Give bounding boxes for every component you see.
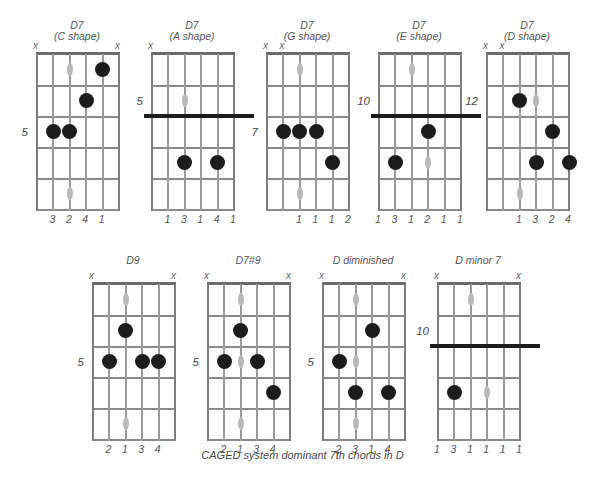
string-line — [167, 54, 169, 211]
finger-dot — [102, 354, 117, 369]
finger-dot — [545, 124, 560, 139]
fret-line — [151, 147, 235, 149]
finger-dot — [250, 354, 265, 369]
finger-number: 1 — [308, 214, 322, 225]
fret-line — [36, 116, 120, 118]
fret-line — [207, 439, 291, 441]
string-gauge-marker — [297, 187, 303, 200]
fret-line — [92, 439, 176, 441]
fretboard-grid — [207, 284, 289, 439]
fret-line — [266, 85, 350, 87]
fret-line — [378, 209, 462, 211]
nut-line — [378, 52, 462, 55]
nut-line — [437, 282, 521, 285]
fret-line — [437, 377, 521, 379]
chord-name: D9 — [92, 255, 174, 267]
chord-diagram-d7sharp9: D7#9xx52134 — [207, 250, 289, 465]
finger-dot — [79, 93, 94, 108]
mute-marker: x — [434, 271, 439, 281]
fret-line — [378, 178, 462, 180]
string-line — [85, 54, 87, 211]
mute-marker: x — [171, 271, 176, 281]
nut-line — [486, 52, 570, 55]
string-line — [535, 54, 537, 211]
fret-line — [437, 408, 521, 410]
string-line — [273, 284, 275, 441]
string-gauge-marker — [238, 293, 244, 306]
string-line — [470, 284, 472, 441]
string-line — [348, 54, 350, 211]
string-gauge-marker — [425, 156, 431, 169]
finger-number: 1 — [453, 214, 467, 225]
position-fret-number: 5 — [117, 95, 143, 107]
finger-number: 1 — [325, 214, 339, 225]
fret-line — [437, 315, 521, 317]
fret-line — [486, 116, 570, 118]
mute-marker: x — [89, 271, 94, 281]
fret-line — [322, 377, 406, 379]
fret-line — [36, 85, 120, 87]
finger-dot — [388, 155, 403, 170]
chord-name: D7#9 — [207, 255, 289, 267]
finger-number: 3 — [45, 214, 59, 225]
finger-number: 4 — [78, 214, 92, 225]
fret-line — [322, 439, 406, 441]
chord-chart-sheet: D7(C shape)xx53241D7(A shape)x513141D7(G… — [0, 0, 605, 490]
fret-line — [92, 408, 176, 410]
finger-dot — [233, 323, 248, 338]
string-line — [332, 54, 334, 211]
fretboard-grid — [151, 54, 233, 209]
chord-name: D minor 7 — [437, 255, 519, 267]
chord-shape-label: (A shape) — [151, 31, 233, 43]
position-fret-number: 5 — [58, 356, 84, 368]
string-line — [378, 54, 380, 211]
finger-dot — [332, 354, 347, 369]
nut-line — [92, 282, 176, 285]
string-line — [460, 54, 462, 211]
finger-number: 2 — [341, 214, 355, 225]
fret-line — [486, 209, 570, 211]
fret-line — [266, 178, 350, 180]
finger-number: 1 — [404, 214, 418, 225]
mute-marker: x — [483, 41, 488, 51]
fret-line — [151, 209, 235, 211]
barre-line — [144, 114, 254, 118]
finger-number: 1 — [95, 214, 109, 225]
finger-dot — [529, 155, 544, 170]
string-line — [207, 284, 209, 441]
finger-dot — [118, 323, 133, 338]
position-fret-number: 5 — [173, 356, 199, 368]
mute-marker: x — [279, 41, 284, 51]
finger-number: 3 — [528, 214, 542, 225]
finger-dot — [325, 155, 340, 170]
string-line — [92, 284, 94, 441]
chord-diagram-d9: D9xx52134 — [92, 250, 174, 465]
finger-number: 1 — [226, 214, 240, 225]
string-gauge-marker — [238, 355, 244, 368]
finger-dot — [151, 354, 166, 369]
fret-line — [266, 209, 350, 211]
position-fret-number: 5 — [288, 356, 314, 368]
string-line — [437, 284, 439, 441]
string-line — [371, 284, 373, 441]
finger-dot — [276, 124, 291, 139]
string-line — [200, 54, 202, 211]
fretboard-grid — [36, 54, 118, 209]
string-line — [404, 284, 406, 441]
fret-line — [92, 377, 176, 379]
string-line — [444, 54, 446, 211]
finger-number: 3 — [177, 214, 191, 225]
string-line — [118, 54, 120, 211]
finger-number: 1 — [292, 214, 306, 225]
string-gauge-marker — [67, 63, 73, 76]
string-gauge-marker — [67, 187, 73, 200]
fretboard-grid — [486, 54, 568, 209]
fret-line — [207, 346, 291, 348]
fret-line — [437, 439, 521, 441]
string-line — [453, 284, 455, 441]
mute-marker: x — [115, 41, 120, 51]
finger-number: 1 — [512, 214, 526, 225]
string-line — [266, 54, 268, 211]
finger-dot — [447, 385, 462, 400]
string-line — [36, 54, 38, 211]
